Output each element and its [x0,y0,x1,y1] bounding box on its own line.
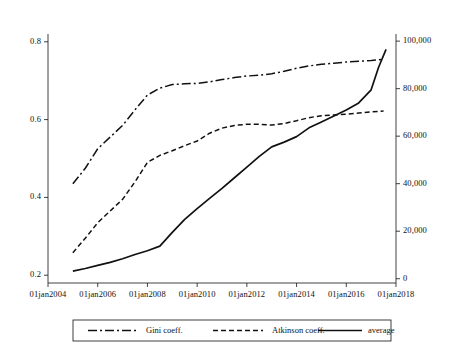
y-left-axis-tick-label: 0.6 [0,114,41,124]
data-series-group [73,49,386,271]
y-left-axis-tick-label: 0.2 [0,269,41,279]
legend-label-average[interactable]: average [368,325,394,335]
y-left-axis-tick-label: 0.4 [0,191,41,201]
y-right-axis-tick-label: 40,000 [403,178,463,188]
series-line-atkinson-coeff [73,111,384,253]
chart-plot-area [0,0,465,360]
y-right-axis-tick-label: 20,000 [403,225,463,235]
series-line-gini-coeff [73,59,384,183]
series-line-average [73,49,386,271]
y-right-axis-tick-label: 100,000 [403,35,463,45]
chart-container: 01jan200401jan200601jan200801jan201001ja… [0,0,465,360]
legend-label-gini-coeff[interactable]: Gini coeff. [146,325,183,335]
y-right-axis-tick-label: 80,000 [403,83,463,93]
legend-label-atkinson-coeff[interactable]: Atkinson coeff. [272,325,325,335]
axis-ticks [44,41,400,287]
x-axis-tick-label: 01jan2018 [366,289,426,299]
y-right-axis-tick-label: 0 [403,273,463,283]
y-right-axis-tick-label: 60,000 [403,130,463,140]
y-left-axis-tick-label: 0.8 [0,36,41,46]
